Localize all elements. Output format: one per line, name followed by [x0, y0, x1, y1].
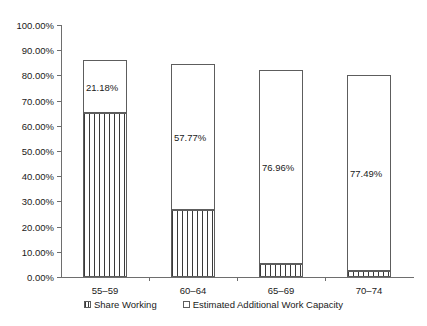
plot-area: 0.00%10.00%20.00%30.00%40.00%50.00%60.00…: [61, 25, 413, 277]
bar-segment-share-working: [259, 264, 303, 277]
x-axis-category-label: 70–74: [356, 285, 382, 296]
y-axis-tick-label: 60.00%: [22, 120, 54, 131]
x-axis-tick: [325, 277, 326, 281]
y-axis-tick-label: 100.00%: [16, 20, 54, 31]
bar-stack: 57.77%: [171, 25, 215, 277]
y-axis-tick: [57, 277, 61, 278]
y-axis-tick-label: 80.00%: [22, 70, 54, 81]
y-axis-tick-label: 40.00%: [22, 171, 54, 182]
x-axis-category-label: 60–64: [180, 285, 206, 296]
white-square-icon: [183, 301, 190, 308]
bar-value-label: 57.77%: [174, 132, 206, 143]
legend-item-additional-capacity: Estimated Additional Work Capacity: [183, 299, 343, 310]
bar-value-label: 21.18%: [86, 82, 118, 93]
x-axis-category-label: 65–69: [268, 285, 294, 296]
bar-segment-share-working: [347, 271, 391, 277]
x-axis-category-label: 55–59: [92, 285, 118, 296]
y-axis-tick: [57, 201, 61, 202]
legend-label-share-working: Share Working: [94, 299, 157, 310]
y-axis-tick-label: 50.00%: [22, 146, 54, 157]
y-axis-tick: [57, 50, 61, 51]
y-axis-tick-label: 0.00%: [27, 272, 54, 283]
y-axis-tick: [57, 101, 61, 102]
legend-label-additional-capacity: Estimated Additional Work Capacity: [193, 299, 343, 310]
y-axis-tick: [57, 75, 61, 76]
y-axis-tick-label: 70.00%: [22, 95, 54, 106]
y-axis-tick: [57, 227, 61, 228]
bar-value-label: 77.49%: [350, 168, 382, 179]
y-axis-tick-label: 20.00%: [22, 221, 54, 232]
bar-segment-share-working: [83, 113, 127, 277]
bar-chart: 0.00%10.00%20.00%30.00%40.00%50.00%60.00…: [0, 0, 427, 326]
y-axis-tick-label: 90.00%: [22, 45, 54, 56]
x-axis-tick: [149, 277, 150, 281]
y-axis-tick: [57, 252, 61, 253]
y-axis-tick: [57, 176, 61, 177]
y-axis-tick-label: 10.00%: [22, 246, 54, 257]
hatched-square-icon: [84, 301, 91, 308]
bar-stack: 77.49%: [347, 25, 391, 277]
y-axis-tick-label: 30.00%: [22, 196, 54, 207]
y-axis-tick: [57, 25, 61, 26]
bar-segment-share-working: [171, 210, 215, 277]
chart-legend: Share Working Estimated Additional Work …: [0, 299, 427, 310]
y-axis-tick: [57, 126, 61, 127]
bar-stack: 21.18%: [83, 25, 127, 277]
bar-stack: 76.96%: [259, 25, 303, 277]
y-axis-tick: [57, 151, 61, 152]
x-axis-tick: [237, 277, 238, 281]
bar-value-label: 76.96%: [262, 162, 294, 173]
legend-item-share-working: Share Working: [84, 299, 157, 310]
